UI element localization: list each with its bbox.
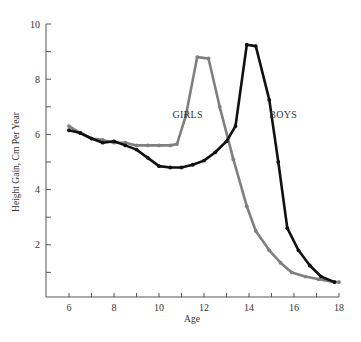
data-point-marker [191,163,195,167]
data-point-marker [297,248,301,252]
y-tick-label: 8 [35,74,40,85]
data-point-marker [180,166,184,170]
data-point-marker [276,160,280,164]
height-gain-chart: 681012141618246810 GIRLSBOYS Age Height … [0,0,361,342]
label-boys: BOYS [269,109,297,120]
data-point-marker [267,98,271,102]
label-girls: GIRLS [173,109,203,120]
data-point-marker [285,226,289,230]
data-point-marker [225,139,229,143]
data-point-marker [146,156,150,160]
data-point-marker [231,157,235,161]
data-point-marker [254,229,258,233]
series-labels: GIRLSBOYS [173,109,298,120]
data-point-marker [67,128,71,132]
data-point-marker [112,139,116,143]
data-point-marker [168,144,172,148]
data-point-marker [123,144,127,148]
data-point-marker [245,204,249,208]
x-tick-label: 8 [112,302,117,313]
data-point-marker [135,148,139,152]
data-point-marker [78,131,82,135]
data-point-marker [146,144,150,148]
x-axis-title: Age [184,314,200,324]
x-tick-label: 18 [334,302,344,313]
x-tick-label: 14 [244,302,254,313]
data-point-marker [333,280,337,284]
data-point-marker [234,124,238,128]
data-point-marker [101,141,105,145]
data-point-marker [308,264,312,268]
series-line [69,45,335,282]
data-point-marker [195,55,199,59]
data-point-marker [207,57,211,61]
data-point-marker [168,166,172,170]
x-tick-label: 12 [199,302,209,313]
data-point-marker [267,248,271,252]
data-point-marker [135,144,139,148]
data-point-marker [67,124,71,128]
data-point-marker [175,142,179,146]
y-tick-label: 2 [35,239,40,250]
data-point-marker [157,144,161,148]
x-tick-label: 16 [289,302,299,313]
y-axis-title: Height Gain, Cm Per Year [11,111,21,212]
series-boys [67,43,336,284]
data-point-marker [202,159,206,163]
y-tick-label: 10 [30,19,40,30]
series-lines [67,43,341,284]
data-point-marker [337,280,341,284]
y-tick-label: 6 [35,129,40,140]
y-tick-label: 4 [35,184,40,195]
data-point-marker [218,105,222,109]
axes [46,24,339,297]
data-point-marker [319,275,323,279]
x-tick-label: 6 [67,302,72,313]
data-point-marker [254,44,258,48]
data-point-marker [90,137,94,141]
data-point-marker [245,43,249,47]
data-point-marker [213,150,217,154]
x-tick-label: 10 [154,302,164,313]
data-point-marker [303,275,307,279]
data-point-marker [279,261,283,265]
data-point-marker [157,164,161,168]
data-point-marker [290,271,294,275]
